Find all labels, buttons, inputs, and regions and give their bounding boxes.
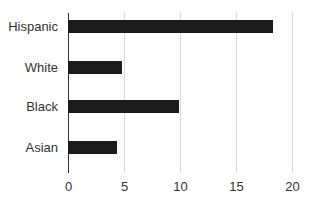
x-tick-label: 10 [173,180,187,194]
y-category-label: Hispanic [8,20,58,34]
y-category-label: Black [26,100,58,114]
gridline [180,13,181,173]
x-tick-label: 0 [65,180,72,194]
bar-black [68,100,179,113]
x-tick-label: 15 [229,180,243,194]
gridline [124,13,125,173]
x-tick-label: 20 [285,180,299,194]
gridline [292,13,293,173]
bar-hispanic [68,20,273,33]
bar-asian [68,141,117,154]
gridline [236,13,237,173]
bar-chart: 05101520HispanicWhiteBlackAsian [0,0,317,203]
y-category-label: White [25,61,58,75]
bar-white [68,61,122,74]
x-tick-label: 5 [121,180,128,194]
y-category-label: Asian [25,141,58,155]
